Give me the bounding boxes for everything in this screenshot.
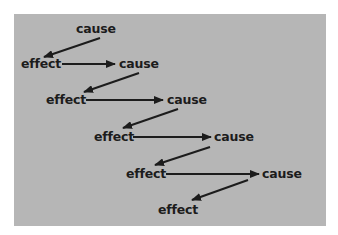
arrow-cause2-effect2: [84, 73, 139, 92]
node-cause-2: cause: [119, 57, 159, 71]
arrow-cause4-effect4: [155, 147, 210, 165]
node-cause-3: cause: [167, 93, 207, 107]
arrow-layer: [0, 0, 338, 235]
node-cause-4: cause: [214, 130, 254, 144]
node-effect-3: effect: [94, 130, 134, 144]
node-effect-4: effect: [126, 167, 166, 181]
arrow-cause3-effect3: [123, 109, 178, 128]
node-effect-5: effect: [158, 203, 198, 217]
node-effect-2: effect: [46, 93, 86, 107]
arrow-cause5-effect5: [192, 180, 248, 200]
arrow-cause1-effect1: [44, 38, 100, 57]
node-cause-5: cause: [262, 167, 302, 181]
node-cause-1: cause: [76, 22, 116, 36]
node-effect-1: effect: [21, 57, 61, 71]
